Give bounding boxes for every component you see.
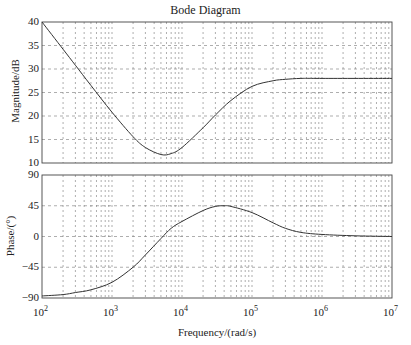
xtick-label: 104 [173,304,188,318]
magnitude-panel [42,22,392,163]
magnitude-ytick-label: 30 [28,62,39,74]
xtick-label: 105 [243,304,258,318]
xtick-label: 102 [33,304,48,318]
xtick-label: 106 [313,304,328,318]
phase-axis-label: Phase/(°) [4,201,16,271]
magnitude-ytick-label: 25 [28,86,39,98]
xtick-label: 107 [383,304,398,318]
magnitude-ytick-label: 10 [28,156,39,168]
phase-ytick-label: 0 [34,230,40,242]
phase-curve [42,206,392,296]
phase-panel [42,175,392,298]
xtick-label: 103 [103,304,118,318]
bode-plot [0,0,411,345]
magnitude-ytick-label: 35 [28,39,39,51]
magnitude-axis-label: Magnitude/dB [9,46,21,136]
magnitude-ytick-label: 40 [28,15,39,27]
phase-ytick-label: −90 [22,291,39,303]
frequency-axis-label: Frequency/(rad/s) [42,326,392,338]
phase-ytick-label: −45 [22,260,39,272]
phase-ytick-label: 45 [28,199,39,211]
phase-ytick-label: 90 [28,168,39,180]
magnitude-curve [42,22,392,155]
magnitude-ytick-label: 15 [28,133,39,145]
magnitude-ytick-label: 20 [28,109,39,121]
